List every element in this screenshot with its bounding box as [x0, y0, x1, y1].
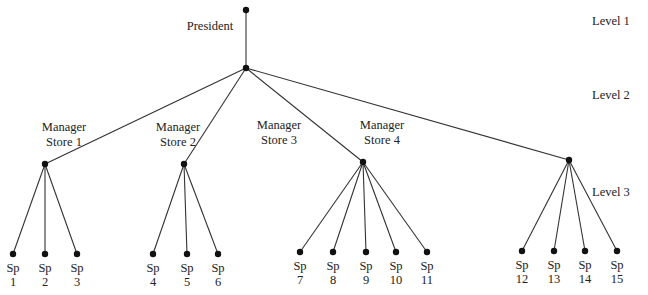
sp-edge: [45, 164, 77, 254]
sp-label: Sp: [507, 258, 537, 272]
sp-number: 13: [539, 272, 569, 286]
sp-edge: [300, 162, 363, 252]
level-label-1: Level 1: [592, 14, 630, 28]
sp-label: Sp: [602, 258, 632, 272]
sp-label: Sp: [381, 259, 411, 273]
manager-label-line1: Manager: [257, 118, 301, 132]
sp-label: Sp: [172, 261, 202, 275]
sp-number: 3: [62, 275, 92, 289]
sp-label: Sp: [0, 261, 28, 275]
sp-label: Sp: [30, 261, 60, 275]
sp-label: Sp: [285, 259, 315, 273]
sp-number: 14: [570, 272, 600, 286]
org-tree-diagram: [0, 0, 648, 295]
level-label-3: Level 3: [592, 185, 630, 199]
sp-label: Sp: [138, 261, 168, 275]
sp-label: Sp: [62, 261, 92, 275]
manager-node-4: [566, 157, 572, 163]
level-label-2: Level 2: [592, 88, 630, 102]
manager-edge-3: [246, 68, 363, 162]
sp-node: [582, 248, 588, 254]
sp-node: [74, 251, 80, 257]
president-node: [243, 7, 249, 13]
sp-number: 6: [203, 275, 233, 289]
sp-number: 8: [318, 273, 348, 287]
sp-node: [363, 249, 369, 255]
president-hub-node: [243, 65, 249, 71]
sp-edge: [363, 162, 366, 252]
sp-number: 5: [172, 275, 202, 289]
manager-label-line1: Manager: [156, 120, 200, 134]
manager-edge-1: [45, 68, 246, 164]
sp-label: Sp: [570, 258, 600, 272]
president-label: President: [187, 19, 234, 33]
sp-node: [297, 249, 303, 255]
manager-label-line2: Store 4: [364, 133, 400, 147]
sp-edge: [333, 162, 363, 252]
manager-node-2: [181, 161, 187, 167]
manager-label-line2: Store 3: [261, 133, 297, 147]
manager-label-line2: Store 2: [160, 135, 196, 149]
sp-edge: [184, 164, 218, 254]
sp-edge: [13, 164, 45, 254]
sp-node: [551, 248, 557, 254]
sp-node: [519, 248, 525, 254]
sp-label: Sp: [539, 258, 569, 272]
sp-node: [330, 249, 336, 255]
manager-node-1: [42, 161, 48, 167]
sp-number: 12: [507, 272, 537, 286]
manager-label-line1: Manager: [42, 120, 86, 134]
sp-edge: [569, 160, 585, 251]
manager-label-line2: Store 1: [46, 135, 82, 149]
sp-number: 2: [30, 275, 60, 289]
sp-edge: [184, 164, 187, 254]
sp-label: Sp: [203, 261, 233, 275]
manager-node-3: [360, 159, 366, 165]
sp-edge: [363, 162, 396, 252]
sp-number: 11: [412, 273, 442, 287]
sp-number: 7: [285, 273, 315, 287]
sp-edge: [569, 160, 617, 251]
sp-node: [393, 249, 399, 255]
sp-label: Sp: [351, 259, 381, 273]
sp-node: [10, 251, 16, 257]
sp-number: 9: [351, 273, 381, 287]
sp-node: [150, 251, 156, 257]
sp-node: [42, 251, 48, 257]
sp-node: [184, 251, 190, 257]
manager-label-line1: Manager: [360, 118, 404, 132]
sp-node: [215, 251, 221, 257]
sp-number: 10: [381, 273, 411, 287]
sp-number: 4: [138, 275, 168, 289]
sp-label: Sp: [318, 259, 348, 273]
sp-node: [614, 248, 620, 254]
sp-number: 1: [0, 275, 28, 289]
sp-edge: [363, 162, 427, 252]
sp-node: [424, 249, 430, 255]
sp-edge: [153, 164, 184, 254]
sp-number: 15: [602, 272, 632, 286]
sp-label: Sp: [412, 259, 442, 273]
